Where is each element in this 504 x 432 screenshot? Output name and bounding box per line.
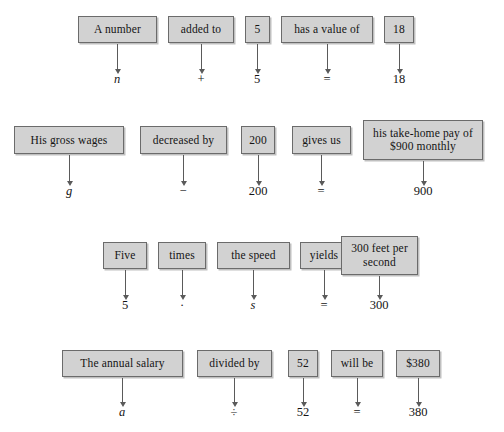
symbol-label: = [320,298,327,312]
symbol-label: 18 [393,72,406,86]
phrase-box: his take-home pay of $900 monthly [363,120,483,160]
symbol-label: 380 [409,405,428,419]
symbol-label: 900 [414,184,433,198]
down-arrow-icon [117,44,118,70]
down-arrow-icon [321,155,322,182]
down-arrow-icon [418,378,419,403]
phrase-box: will be [331,350,383,377]
down-arrow-icon [201,44,202,70]
phrase-box: His gross wages [14,126,124,154]
phrase-box: A number [78,16,157,43]
phrase-box: The annual salary [62,350,183,377]
phrase-box: times [158,242,206,269]
phrase-box: the speed [217,242,290,269]
symbol-label: 5 [254,72,260,86]
symbol-label: g [66,184,72,198]
down-arrow-icon [183,155,184,182]
down-arrow-icon [258,155,259,182]
symbol-label: a [119,405,125,419]
down-arrow-icon [357,378,358,403]
phrase-box: gives us [292,126,351,154]
down-arrow-icon [253,270,254,296]
down-arrow-icon [234,378,235,403]
phrase-box: 18 [384,16,414,43]
phrase-box: has a value of [281,16,373,43]
phrase-box: added to [168,16,234,43]
down-arrow-icon [182,270,183,296]
phrase-box: 300 feet per second [341,236,418,275]
down-arrow-icon [303,378,304,403]
symbol-label: 52 [297,405,310,419]
down-arrow-icon [125,270,126,296]
symbol-label: − [179,184,186,198]
down-arrow-icon [122,378,123,403]
phrase-box: Five [103,242,147,269]
symbol-label: · [180,298,184,312]
phrase-box: divided by [197,350,272,377]
symbol-label: 300 [370,298,389,312]
phrase-box: $380 [396,350,440,377]
symbol-label: = [317,184,324,198]
symbol-label: + [197,72,204,86]
phrase-box: 5 [245,16,270,43]
down-arrow-icon [399,44,400,70]
symbol-label: = [323,72,330,86]
symbol-label: n [114,72,120,86]
down-arrow-icon [379,276,380,296]
translation-diagram: A numberadded to5has a value of18n+5=18H… [0,0,504,432]
symbol-label: = [353,405,360,419]
down-arrow-icon [327,44,328,70]
down-arrow-icon [257,44,258,70]
symbol-label: 200 [249,184,268,198]
phrase-box: 200 [241,126,275,154]
down-arrow-icon [324,270,325,296]
phrase-box: decreased by [140,126,227,154]
symbol-label: ÷ [231,405,238,419]
phrase-box: 52 [288,350,318,377]
down-arrow-icon [69,155,70,182]
symbol-label: s [251,298,256,312]
symbol-label: 5 [122,298,128,312]
down-arrow-icon [423,161,424,182]
